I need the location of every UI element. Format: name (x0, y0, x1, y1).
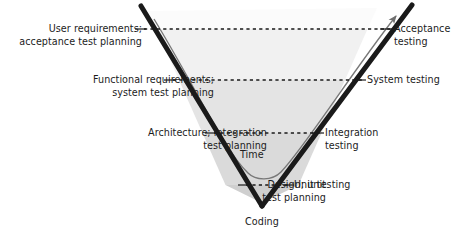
label-acceptance-testing: Acceptance testing (394, 22, 450, 48)
label-unit-testing: Unit testing (294, 178, 350, 191)
v-model-figure: User requirements; acceptance test plann… (0, 0, 474, 240)
shading-bands (148, 8, 377, 203)
label-time: Time (240, 148, 264, 161)
label-functional-requirements: Functional requirements; system test pla… (93, 73, 214, 99)
label-coding: Coding (229, 215, 295, 228)
label-user-requirements: User requirements; acceptance test plann… (19, 22, 142, 48)
label-integration-testing: Integration testing (325, 126, 378, 152)
band-top-sliver (148, 8, 377, 29)
label-system-testing: System testing (367, 73, 440, 86)
